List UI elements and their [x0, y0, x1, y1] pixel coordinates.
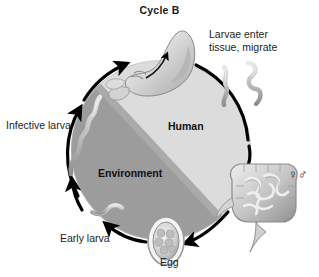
label-larvae-enter: Larvae enter tissue, migrate: [209, 28, 277, 53]
label-environment-compartment: Environment: [98, 167, 162, 180]
label-egg: Egg: [160, 256, 179, 269]
label-early-larva: Early larva: [60, 232, 110, 245]
label-human-compartment: Human: [168, 120, 204, 133]
worm-right: [248, 63, 261, 104]
sex-symbols-venus-mars: ♀♂: [288, 167, 308, 182]
diagram-canvas: Cycle B: [0, 0, 319, 277]
label-infective-larva: Infective larva: [6, 119, 71, 132]
